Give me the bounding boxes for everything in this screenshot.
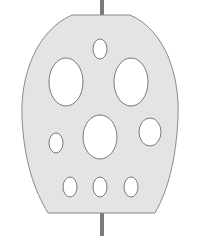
top-small-hole	[93, 39, 107, 59]
upper-left-large-hole	[49, 58, 83, 106]
rod-bottom-segment	[100, 213, 104, 236]
perforated-plate-diagram	[0, 0, 197, 236]
bottom-left-small-hole	[63, 177, 77, 197]
upper-right-large-hole	[114, 58, 148, 106]
rod-top-segment	[100, 0, 104, 16]
middle-right-medium-hole	[139, 118, 161, 146]
center-large-hole	[83, 115, 117, 159]
bottom-right-small-hole	[124, 177, 138, 197]
bottom-center-small-hole	[93, 177, 107, 197]
middle-left-small-hole	[49, 133, 63, 153]
diagram-canvas	[0, 0, 197, 236]
